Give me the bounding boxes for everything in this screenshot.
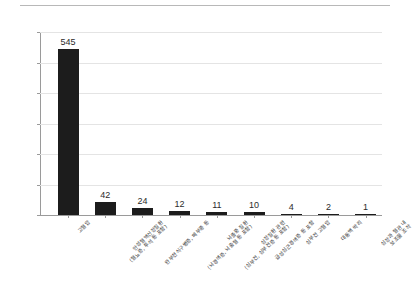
- x-axis-tick-mark: [366, 215, 367, 218]
- y-axis-tick-mark: [37, 32, 40, 33]
- y-axis-tick-mark: [37, 215, 40, 216]
- bar-value-label: 24: [122, 196, 162, 206]
- x-axis-category-label: 심장과 혈관 내보조물 조작: [379, 219, 411, 251]
- gridline: [40, 93, 382, 94]
- bar-value-label: 1: [346, 202, 386, 212]
- gridline: [40, 154, 382, 155]
- x-axis-tick-mark: [328, 215, 329, 218]
- x-axis-tick-mark: [254, 215, 255, 218]
- gridline: [40, 32, 382, 33]
- category-label-line: 고혈압: [76, 219, 91, 234]
- bar-value-label: 4: [271, 202, 311, 212]
- x-axis-category-label: 대동맥 박리: [340, 219, 363, 242]
- gridline: [40, 185, 382, 186]
- bar: [58, 49, 79, 215]
- x-axis-category-label: 고혈압: [76, 219, 91, 234]
- bar-value-label: 545: [48, 37, 88, 47]
- bar-value-label: 12: [160, 199, 200, 209]
- gridline: [40, 124, 382, 125]
- bar: [95, 202, 116, 215]
- x-axis-tick-mark: [291, 215, 292, 218]
- top-divider-rule: [20, 5, 390, 6]
- y-axis-tick-mark: [37, 154, 40, 155]
- x-axis-category-label: 만성혈액신장질환(혈뇨증, 투석 등 포함): [124, 219, 169, 264]
- category-label-line: 대동맥 박리: [340, 219, 363, 242]
- bar: [132, 208, 153, 215]
- x-axis-tick-mark: [105, 215, 106, 218]
- bar-value-label: 10: [234, 200, 274, 210]
- x-axis-tick-mark: [68, 215, 69, 218]
- x-axis-tick-mark: [180, 215, 181, 218]
- bar-value-label: 11: [197, 200, 237, 210]
- x-axis-tick-mark: [142, 215, 143, 218]
- y-axis-tick-mark: [37, 185, 40, 186]
- y-axis-tick-mark: [37, 93, 40, 94]
- bar-value-label: 2: [308, 202, 348, 212]
- x-axis-tick-mark: [217, 215, 218, 218]
- x-axis-line: [40, 215, 382, 216]
- bar-value-label: 42: [85, 190, 125, 200]
- category-label-line: 만성혈액신장질환: [124, 219, 164, 259]
- y-axis-tick-mark: [37, 63, 40, 64]
- y-axis-tick-mark: [37, 124, 40, 125]
- plot-area: 0100200300400500600 5454224121110421: [40, 32, 382, 215]
- gridline: [40, 63, 382, 64]
